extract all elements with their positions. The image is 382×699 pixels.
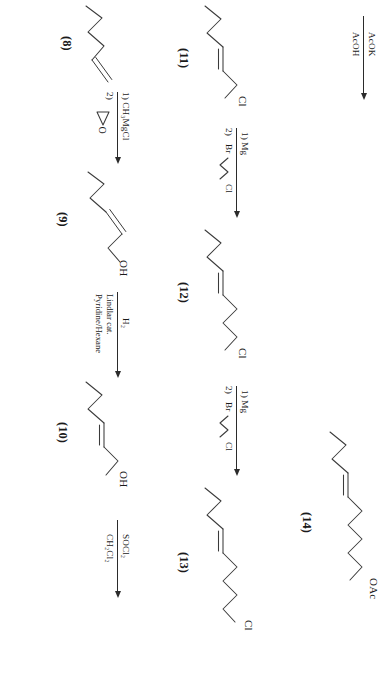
compound-14-terminus-label: OAc	[368, 578, 380, 599]
compound-14-label: (14)	[299, 512, 314, 533]
synthesis-scheme-bottom: AcOK AcOH OAc (14)	[230, 0, 382, 699]
figure-canvas-bottom: AcOK AcOH OAc (14)	[0, 0, 230, 699]
reagent-above-13-14: AcOK	[367, 32, 377, 56]
reagent-below-13-14: AcOH	[351, 32, 361, 56]
